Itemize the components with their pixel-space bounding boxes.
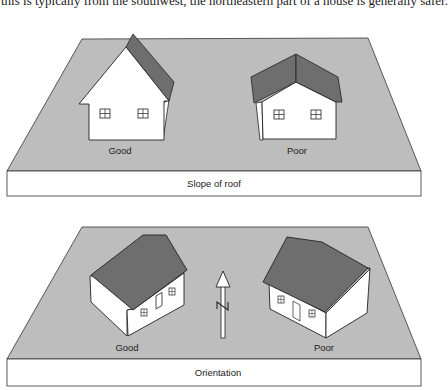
window-icon <box>100 109 110 118</box>
window-icon <box>141 309 147 316</box>
window-icon <box>274 110 284 119</box>
label-good: Good <box>108 145 131 156</box>
label-poor: Poor <box>314 342 334 353</box>
panel-slope-of-roof: Slope of roof Good <box>7 34 421 196</box>
window-icon <box>311 110 321 119</box>
window-icon <box>169 288 175 295</box>
window-icon <box>309 310 315 317</box>
label-poor: Poor <box>287 145 307 156</box>
ground-plane <box>7 38 421 171</box>
window-icon <box>138 109 148 118</box>
window-icon <box>278 296 284 303</box>
label-good: Good <box>115 342 138 353</box>
panel-orientation: Orientation Good <box>7 227 421 386</box>
panel-title: Slope of roof <box>187 178 241 189</box>
panel-title: Orientation <box>195 367 241 378</box>
